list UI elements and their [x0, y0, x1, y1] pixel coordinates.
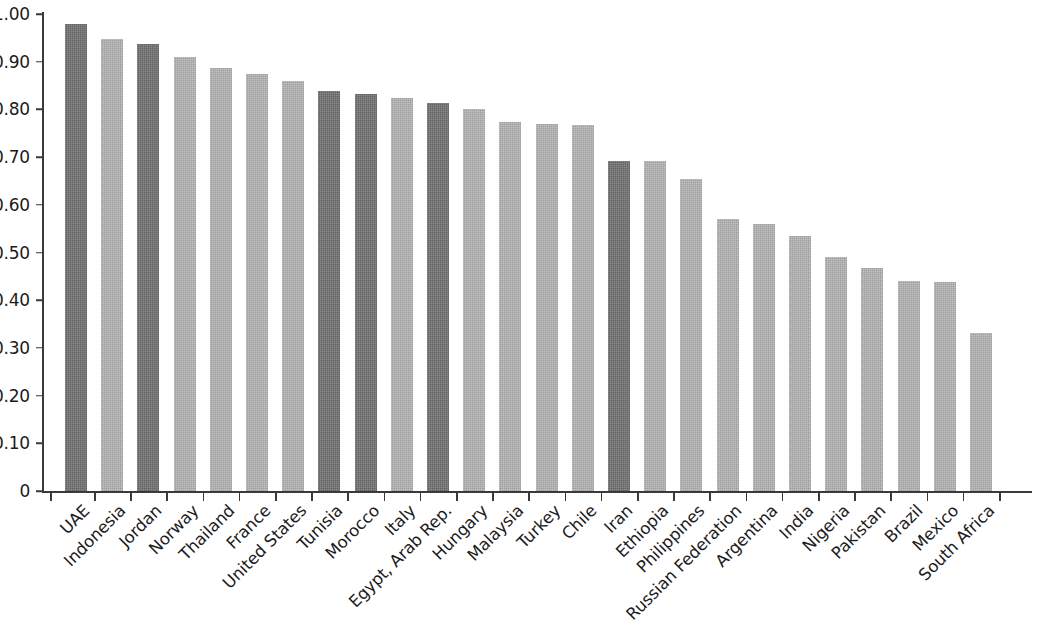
- bar-chart: 1.000.900.800.700.600.500.400.300.200.10…: [0, 0, 1039, 632]
- x-axis-tick-mark: [492, 492, 494, 501]
- bar: [717, 219, 739, 492]
- bar: [210, 68, 232, 492]
- x-axis: UAEIndonesiaJordanNorwayThailandFranceUn…: [42, 501, 1032, 632]
- x-axis-tick-mark: [166, 492, 168, 501]
- x-axis-tick-mark: [420, 492, 422, 501]
- bar: [536, 124, 558, 492]
- x-axis-tick-mark: [782, 492, 784, 501]
- bar: [427, 103, 449, 492]
- y-axis-tick-label: 0.40: [0, 290, 30, 310]
- x-axis-tick-mark: [347, 492, 349, 501]
- bar: [608, 161, 630, 493]
- x-axis-tick-mark: [456, 492, 458, 501]
- bar: [65, 24, 87, 492]
- y-axis-tick-label: 0.70: [0, 147, 30, 167]
- x-axis-tick-mark: [673, 492, 675, 501]
- y-axis-tick-label: 0.30: [0, 338, 30, 358]
- y-axis-tick-label: 0.60: [0, 195, 30, 215]
- x-axis-tick-mark: [637, 492, 639, 501]
- x-axis-tick-mark: [94, 492, 96, 501]
- y-axis-tick-label: 0.10: [0, 433, 30, 453]
- x-axis-tick-mark: [130, 492, 132, 501]
- y-axis-tick-label: 0: [19, 481, 30, 501]
- bar: [318, 91, 340, 492]
- x-axis-tick-mark: [999, 492, 1001, 501]
- y-axis-tick-label: 0.50: [0, 243, 30, 263]
- bar: [644, 161, 666, 492]
- x-axis-tick-mark: [239, 492, 241, 501]
- y-axis-tick-label: 1.00: [0, 4, 30, 24]
- bar: [282, 81, 304, 492]
- y-axis-tick-label: 0.20: [0, 386, 30, 406]
- bar: [391, 98, 413, 492]
- x-axis-tick-mark: [565, 492, 567, 501]
- bar: [861, 268, 883, 492]
- bar: [137, 44, 159, 492]
- bar: [934, 282, 956, 492]
- bar: [174, 57, 196, 492]
- x-axis-tick-mark: [927, 492, 929, 501]
- bar: [101, 39, 123, 492]
- x-axis-tick-mark: [203, 492, 205, 501]
- x-axis-tick-mark: [709, 492, 711, 501]
- x-axis-tick-mark: [818, 492, 820, 501]
- bar: [246, 74, 268, 492]
- bar: [572, 125, 594, 492]
- bar: [680, 179, 702, 492]
- y-axis-tick-label: 0.80: [0, 99, 30, 119]
- y-axis-tick-label: 0.90: [0, 52, 30, 72]
- x-axis-tick-mark: [890, 492, 892, 501]
- x-axis-tick-mark: [854, 492, 856, 501]
- x-axis-tick-mark: [275, 492, 277, 501]
- x-axis-tick-mark: [50, 492, 52, 501]
- x-axis-tick-mark: [601, 492, 603, 501]
- x-axis-tick-mark: [311, 492, 313, 501]
- x-axis-tick-mark: [963, 492, 965, 501]
- bar: [463, 109, 485, 492]
- x-axis-tick-mark: [746, 492, 748, 501]
- y-axis: 1.000.900.800.700.600.500.400.300.200.10…: [0, 0, 42, 632]
- x-axis-tick-mark: [384, 492, 386, 501]
- x-axis-tick-mark: [528, 492, 530, 501]
